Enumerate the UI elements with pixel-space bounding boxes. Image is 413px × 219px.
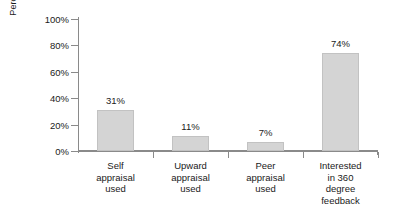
x-axis-category-label-line: appraisal	[227, 172, 305, 184]
y-axis-tick-label: 40%	[50, 93, 69, 104]
y-axis-tick-label: 20%	[50, 119, 69, 130]
bar	[172, 136, 209, 151]
bar	[247, 142, 284, 151]
x-axis-category-label-line: feedback	[302, 195, 380, 207]
y-axis-tick	[71, 98, 79, 99]
x-axis-category-label-line: used	[77, 183, 155, 195]
x-axis-category-separator	[303, 152, 304, 158]
bar	[97, 110, 134, 151]
x-axis-category-separator	[378, 152, 379, 158]
x-axis-category-label-line: Upward	[152, 160, 230, 172]
y-axis-tick	[71, 19, 79, 20]
y-axis-tick	[71, 72, 79, 73]
bar-chart: Percentage use/interest 0%20%40%60%80%10…	[0, 0, 413, 219]
x-axis-category-label-line: Self	[77, 160, 155, 172]
x-axis-category-label-line: appraisal	[77, 172, 155, 184]
x-axis-category-label: Interestedin 360degreefeedback	[302, 160, 380, 206]
y-axis-tick	[71, 151, 79, 152]
x-axis-category-label-line: appraisal	[152, 172, 230, 184]
x-axis-category-separator	[228, 152, 229, 158]
x-axis-category-label-line: Peer	[227, 160, 305, 172]
x-axis-category-label: Upwardappraisalused	[152, 160, 230, 195]
y-axis-tick-label: 0%	[55, 146, 69, 157]
bar-value-label: 74%	[331, 38, 350, 49]
y-axis-tick-label: 80%	[50, 40, 69, 51]
plot-area: 0%20%40%60%80%100%31%11%7%74%	[78, 19, 378, 151]
y-axis-tick	[71, 45, 79, 46]
bar	[322, 53, 359, 151]
x-axis-category-label: Peerappraisalused	[227, 160, 305, 195]
y-axis-tick	[71, 125, 79, 126]
y-axis-tick-label: 100%	[45, 14, 69, 25]
y-axis-tick-label: 60%	[50, 66, 69, 77]
x-axis-category-separator	[153, 152, 154, 158]
x-axis-category-label-line: in 360	[302, 172, 380, 184]
bar-value-label: 31%	[106, 95, 125, 106]
x-axis-category-label: Selfappraisalused	[77, 160, 155, 195]
bar-value-label: 7%	[259, 127, 273, 138]
x-axis-category-label-line: used	[227, 183, 305, 195]
x-axis-category-label-line: degree	[302, 183, 380, 195]
x-axis-category-label-line: used	[152, 183, 230, 195]
x-axis-category-label-line: Interested	[302, 160, 380, 172]
y-axis-title: Percentage use/interest	[6, 0, 20, 33]
bar-value-label: 11%	[181, 121, 199, 132]
